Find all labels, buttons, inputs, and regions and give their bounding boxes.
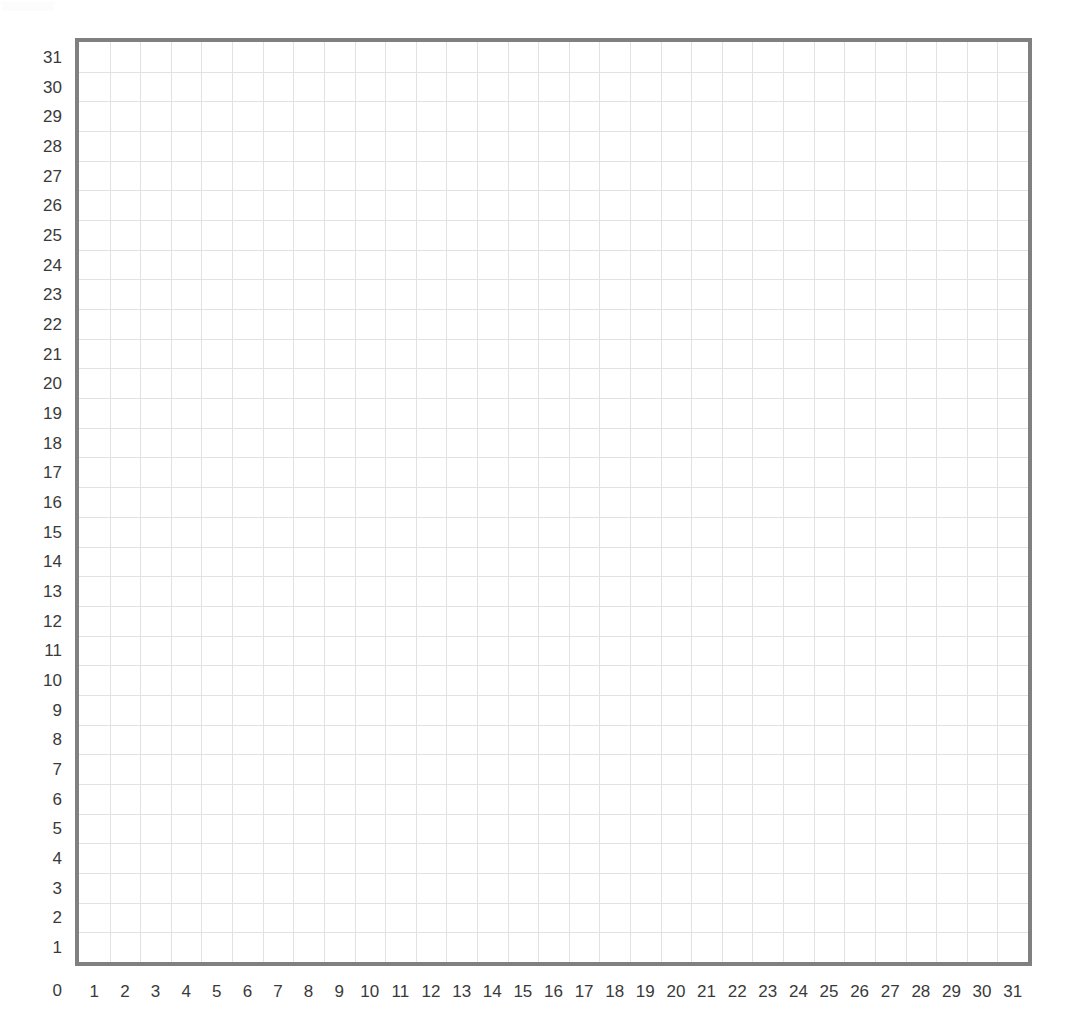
x-tick-label: 3 xyxy=(151,983,160,1000)
x-tick-label: 23 xyxy=(758,983,777,1000)
x-tick-label: 19 xyxy=(636,983,655,1000)
y-tick-label: 8 xyxy=(53,731,62,748)
x-tick-label: 1 xyxy=(90,983,99,1000)
y-tick-label: 11 xyxy=(44,642,62,659)
x-tick-label: 27 xyxy=(881,983,900,1000)
x-tick-label: 7 xyxy=(273,983,282,1000)
y-tick-label: 31 xyxy=(43,48,62,65)
x-tick-label: 30 xyxy=(973,983,992,1000)
y-tick-label: 25 xyxy=(43,226,62,243)
y-tick-label: 18 xyxy=(43,434,62,451)
x-tick-label: 18 xyxy=(605,983,624,1000)
x-tick-label: 28 xyxy=(911,983,930,1000)
x-tick-label: 21 xyxy=(697,983,716,1000)
y-tick-label: 21 xyxy=(43,345,62,362)
x-tick-label: 2 xyxy=(120,983,129,1000)
y-tick-label: 5 xyxy=(53,820,62,837)
x-tick-label: 25 xyxy=(820,983,839,1000)
y-tick-label: 17 xyxy=(43,464,62,481)
x-tick-label: 16 xyxy=(544,983,563,1000)
x-tick-label: 5 xyxy=(212,983,221,1000)
y-tick-label: 16 xyxy=(43,494,62,511)
y-tick-label: 27 xyxy=(43,167,62,184)
y-tick-label: 2 xyxy=(53,909,62,926)
y-tick-label: 13 xyxy=(43,583,62,600)
y-tick-label: 15 xyxy=(43,523,62,540)
x-tick-label: 17 xyxy=(575,983,594,1000)
y-tick-label: 29 xyxy=(43,108,62,125)
x-tick-label: 26 xyxy=(850,983,869,1000)
grid-lines xyxy=(79,42,1028,962)
y-tick-label: 9 xyxy=(53,701,62,718)
x-tick-label: 24 xyxy=(789,983,808,1000)
x-tick-label: 10 xyxy=(360,983,379,1000)
y-tick-label: 28 xyxy=(43,137,62,154)
y-tick-label: 22 xyxy=(43,315,62,332)
x-tick-label: 6 xyxy=(243,983,252,1000)
x-tick-label: 9 xyxy=(334,983,343,1000)
y-tick-label: 7 xyxy=(53,761,62,778)
x-tick-label: 20 xyxy=(666,983,685,1000)
y-tick-label: 4 xyxy=(53,850,62,867)
y-tick-label: 26 xyxy=(43,197,62,214)
origin-tick-label: 0 xyxy=(53,982,62,999)
y-tick-label: 19 xyxy=(43,404,62,421)
x-tick-label: 22 xyxy=(728,983,747,1000)
y-tick-label: 1 xyxy=(53,939,62,956)
x-tick-label: 13 xyxy=(452,983,471,1000)
x-tick-label: 8 xyxy=(304,983,313,1000)
y-tick-label: 6 xyxy=(53,790,62,807)
x-tick-label: 11 xyxy=(392,983,410,1000)
y-tick-label: 12 xyxy=(43,612,62,629)
y-tick-label: 23 xyxy=(43,286,62,303)
plot-area xyxy=(75,38,1032,966)
x-tick-label: 15 xyxy=(513,983,532,1000)
x-tick-label: 29 xyxy=(942,983,961,1000)
x-tick-label: 31 xyxy=(1003,983,1022,1000)
scan-artifact xyxy=(2,2,54,11)
y-tick-label: 30 xyxy=(43,78,62,95)
y-tick-label: 3 xyxy=(53,879,62,896)
y-tick-label: 24 xyxy=(43,256,62,273)
y-tick-label: 20 xyxy=(43,375,62,392)
coordinate-grid-figure: 3130292827262524232221201918171615141312… xyxy=(0,0,1075,1029)
y-tick-label: 10 xyxy=(43,672,62,689)
x-tick-label: 14 xyxy=(483,983,502,1000)
y-tick-label: 14 xyxy=(43,553,62,570)
x-tick-label: 12 xyxy=(422,983,441,1000)
x-tick-label: 4 xyxy=(181,983,190,1000)
